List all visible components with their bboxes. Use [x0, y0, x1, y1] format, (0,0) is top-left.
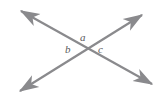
angle-label-c: c [98, 44, 103, 55]
geometry-figure: a b c [0, 0, 164, 102]
angle-label-a: a [80, 32, 86, 43]
line-lower-left-to-upper-right [20, 15, 142, 91]
angle-label-b: b [65, 44, 71, 55]
intersecting-lines-svg [0, 0, 164, 102]
